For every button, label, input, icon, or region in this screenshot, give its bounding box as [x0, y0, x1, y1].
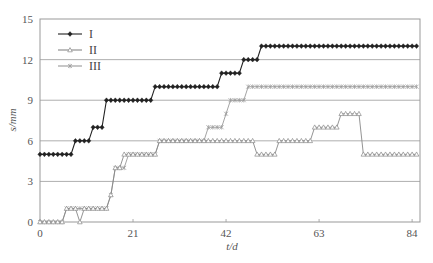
legend-item-ii: II	[58, 43, 97, 57]
diamond-marker-icon	[42, 152, 46, 157]
diamond-marker-icon	[290, 44, 294, 49]
diamond-marker-icon	[95, 125, 99, 130]
y-tick-label: 9	[28, 94, 34, 106]
y-tick-label: 0	[28, 216, 34, 228]
diamond-marker-icon	[135, 98, 139, 103]
diamond-marker-icon	[255, 57, 259, 62]
diamond-marker-icon	[180, 84, 184, 89]
diamond-marker-icon	[250, 57, 254, 62]
diamond-marker-icon	[361, 44, 365, 49]
diamond-marker-icon	[410, 44, 414, 49]
diamond-marker-icon	[246, 57, 250, 62]
series-line	[40, 114, 417, 222]
diamond-marker-icon	[388, 44, 392, 49]
diamond-marker-icon	[215, 84, 219, 89]
series-line	[40, 87, 417, 222]
diamond-marker-icon	[149, 98, 153, 103]
diamond-marker-icon	[264, 44, 268, 49]
diamond-marker-icon	[166, 84, 170, 89]
diamond-marker-icon	[374, 44, 378, 49]
legend-label: II	[89, 43, 97, 57]
diamond-marker-icon	[281, 44, 285, 49]
diamond-marker-icon	[197, 84, 201, 89]
diamond-marker-icon	[60, 152, 64, 157]
settlement-chart: 03691215 021426384 IIIIII s/mm t/d	[0, 0, 433, 263]
diamond-marker-icon	[224, 71, 228, 76]
diamond-marker-icon	[171, 84, 175, 89]
diamond-marker-icon	[104, 98, 108, 103]
diamond-marker-icon	[56, 152, 60, 157]
diamond-marker-icon	[348, 44, 352, 49]
asterisk-marker-icon	[224, 111, 228, 116]
diamond-marker-icon	[47, 152, 51, 157]
diamond-marker-icon	[357, 44, 361, 49]
y-tick-label: 6	[28, 135, 34, 147]
diamond-marker-icon	[339, 44, 343, 49]
diamond-marker-icon	[379, 44, 383, 49]
diamond-marker-icon	[228, 71, 232, 76]
diamond-marker-icon	[366, 44, 370, 49]
diamond-marker-icon	[383, 44, 387, 49]
diamond-marker-icon	[277, 44, 281, 49]
diamond-marker-icon	[299, 44, 303, 49]
diamond-marker-icon	[184, 84, 188, 89]
legend: IIIIII	[58, 27, 101, 73]
diamond-marker-icon	[211, 84, 215, 89]
diamond-marker-icon	[335, 44, 339, 49]
diamond-marker-icon	[82, 138, 86, 143]
y-tick-label: 15	[22, 13, 34, 25]
diamond-marker-icon	[91, 125, 95, 130]
y-axis-label: s/mm	[6, 108, 18, 131]
diamond-marker-icon	[308, 44, 312, 49]
diamond-marker-icon	[312, 44, 316, 49]
y-axis-ticks: 03691215	[22, 13, 34, 228]
x-axis-label: t/d	[226, 240, 238, 252]
diamond-marker-icon	[295, 44, 299, 49]
diamond-marker-icon	[317, 44, 321, 49]
plot-frame	[40, 19, 420, 222]
diamond-marker-icon	[321, 44, 325, 49]
x-tick-label: 63	[314, 227, 326, 239]
diamond-marker-icon	[118, 98, 122, 103]
diamond-marker-icon	[113, 98, 117, 103]
diamond-marker-icon	[304, 44, 308, 49]
x-tick-label: 42	[221, 227, 232, 239]
diamond-marker-icon	[188, 84, 192, 89]
x-tick-label: 84	[407, 227, 419, 239]
diamond-marker-icon	[51, 152, 55, 157]
diamond-marker-icon	[259, 44, 263, 49]
legend-item-iii: III	[58, 59, 101, 73]
diamond-marker-icon	[193, 84, 197, 89]
diamond-marker-icon	[268, 44, 272, 49]
diamond-marker-icon	[87, 138, 91, 143]
diamond-marker-icon	[352, 44, 356, 49]
diamond-marker-icon	[326, 44, 330, 49]
legend-item-i: I	[58, 27, 93, 41]
diamond-marker-icon	[140, 98, 144, 103]
diamond-marker-icon	[144, 98, 148, 103]
diamond-marker-icon	[401, 44, 405, 49]
diamond-marker-icon	[414, 44, 418, 49]
diamond-marker-icon	[242, 57, 246, 62]
diamond-marker-icon	[370, 44, 374, 49]
diamond-marker-icon	[153, 84, 157, 89]
diamond-marker-icon	[343, 44, 347, 49]
diamond-marker-icon	[126, 98, 130, 103]
diamond-marker-icon	[131, 98, 135, 103]
y-tick-label: 12	[22, 54, 33, 66]
diamond-marker-icon	[202, 84, 206, 89]
diamond-marker-icon	[69, 152, 73, 157]
legend-label: I	[89, 27, 93, 41]
diamond-marker-icon	[330, 44, 334, 49]
diamond-marker-icon	[109, 98, 113, 103]
gridlines	[40, 60, 420, 182]
series-iii	[38, 84, 419, 224]
diamond-marker-icon	[237, 71, 241, 76]
diamond-marker-icon	[175, 84, 179, 89]
diamond-marker-icon	[68, 32, 72, 37]
x-tick-label: 0	[37, 227, 43, 239]
diamond-marker-icon	[397, 44, 401, 49]
diamond-marker-icon	[233, 71, 237, 76]
legend-label: III	[89, 59, 101, 73]
diamond-marker-icon	[64, 152, 68, 157]
